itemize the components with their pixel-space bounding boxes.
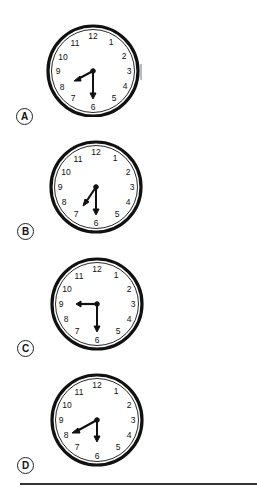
svg-text:10: 10 <box>58 52 68 62</box>
svg-text:2: 2 <box>127 400 132 410</box>
svg-text:12: 12 <box>92 380 102 390</box>
svg-text:5: 5 <box>116 442 121 452</box>
svg-text:9: 9 <box>59 415 64 425</box>
separator-line <box>20 483 257 485</box>
svg-text:1: 1 <box>114 270 119 280</box>
svg-text:12: 12 <box>91 147 101 157</box>
svg-text:3: 3 <box>127 66 132 76</box>
svg-text:9: 9 <box>59 299 64 309</box>
svg-text:6: 6 <box>95 335 100 345</box>
answer-option-d[interactable]: 12 1 2 3 4 5 6 7 8 9 10 11 D <box>0 351 257 468</box>
clock-face-a: 12 1 2 3 4 5 6 7 8 9 10 11 <box>0 0 257 117</box>
svg-text:3: 3 <box>130 182 135 192</box>
svg-text:2: 2 <box>127 284 132 294</box>
option-letter-d[interactable]: D <box>17 457 34 474</box>
svg-text:11: 11 <box>75 387 84 397</box>
svg-text:10: 10 <box>62 400 72 410</box>
svg-text:3: 3 <box>131 299 136 309</box>
svg-text:4: 4 <box>127 314 132 324</box>
svg-text:1: 1 <box>114 386 119 396</box>
answer-option-b[interactable]: 12 1 2 3 4 5 6 7 8 9 10 11 B <box>0 117 257 234</box>
svg-text:8: 8 <box>64 314 69 324</box>
svg-text:4: 4 <box>126 197 131 207</box>
svg-text:7: 7 <box>71 93 76 103</box>
scan-artifact <box>140 64 142 80</box>
svg-text:7: 7 <box>75 326 80 336</box>
svg-text:9: 9 <box>56 66 61 76</box>
svg-text:8: 8 <box>62 197 67 207</box>
svg-text:4: 4 <box>123 81 128 91</box>
svg-text:10: 10 <box>61 167 71 177</box>
svg-text:5: 5 <box>116 326 121 336</box>
svg-text:3: 3 <box>131 415 136 425</box>
svg-text:1: 1 <box>109 37 114 47</box>
svg-text:11: 11 <box>75 271 84 281</box>
svg-text:1: 1 <box>113 153 118 163</box>
svg-text:11: 11 <box>71 38 80 48</box>
svg-text:2: 2 <box>122 51 127 61</box>
svg-text:9: 9 <box>58 182 63 192</box>
svg-text:4: 4 <box>127 430 132 440</box>
svg-text:7: 7 <box>74 209 79 219</box>
svg-text:5: 5 <box>115 209 120 219</box>
svg-text:6: 6 <box>91 102 96 112</box>
svg-text:12: 12 <box>92 264 102 274</box>
clock-face-d: 12 1 2 3 4 5 6 7 8 9 10 11 <box>0 351 257 468</box>
svg-text:6: 6 <box>94 218 99 228</box>
svg-text:6: 6 <box>95 451 100 461</box>
svg-text:5: 5 <box>112 93 117 103</box>
svg-text:7: 7 <box>75 442 80 452</box>
svg-text:12: 12 <box>88 31 98 41</box>
svg-text:8: 8 <box>60 82 65 92</box>
clock-face-c: 12 1 2 3 4 5 6 7 8 9 10 11 <box>0 234 257 351</box>
svg-text:8: 8 <box>64 430 69 440</box>
svg-text:2: 2 <box>126 167 131 177</box>
svg-text:11: 11 <box>74 154 83 164</box>
clock-face-b: 12 1 2 3 4 5 6 7 8 9 10 11 <box>0 117 257 234</box>
answer-option-a[interactable]: 12 1 2 3 4 5 6 7 8 9 10 11 A <box>0 0 257 117</box>
answer-option-c[interactable]: 12 1 2 3 4 5 6 7 8 9 10 11 C <box>0 234 257 351</box>
svg-text:10: 10 <box>62 284 72 294</box>
